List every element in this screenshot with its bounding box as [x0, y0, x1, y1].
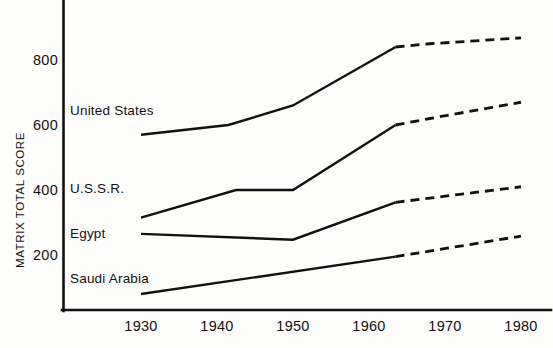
- series-label-saudi-arabia: Saudi Arabia: [70, 271, 149, 286]
- series-line-dashed: [396, 187, 521, 203]
- x-tick-label-1930: 1930: [114, 318, 168, 334]
- x-tick-label-1980: 1980: [494, 318, 548, 334]
- x-tick-label-1950: 1950: [266, 318, 320, 334]
- series-line-solid: [141, 202, 396, 239]
- chart-container: MATRIX TOTAL SCORE 800 600 400 200 1930 …: [0, 0, 553, 348]
- series-line-dashed: [396, 236, 521, 256]
- x-tick-label-1940: 1940: [190, 318, 244, 334]
- y-tick-label-600: 600: [18, 117, 58, 133]
- series-line-dashed: [396, 102, 521, 125]
- chart-plot-area: [0, 0, 553, 348]
- series-layer: [141, 38, 521, 294]
- y-tick-label-200: 200: [18, 247, 58, 263]
- series-label-egypt: Egypt: [70, 226, 106, 241]
- y-tick-label-400: 400: [18, 182, 58, 198]
- x-tick-label-1960: 1960: [342, 318, 396, 334]
- y-tick-label-800: 800: [18, 52, 58, 68]
- series-label-ussr: U.S.S.R.: [70, 181, 124, 196]
- x-tick-label-1970: 1970: [418, 318, 472, 334]
- series-line-solid: [141, 47, 396, 135]
- series-line-solid: [141, 257, 396, 294]
- series-label-united-states: United States: [70, 103, 154, 118]
- series-line-dashed: [396, 38, 521, 47]
- series-line-solid: [141, 125, 396, 218]
